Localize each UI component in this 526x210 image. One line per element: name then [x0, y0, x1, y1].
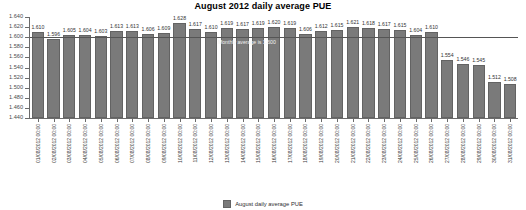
x-axis-label: 30/08/2012 00:00 — [489, 124, 499, 186]
x-axis-tick — [101, 118, 102, 122]
x-axis-tick — [38, 118, 39, 122]
bar-value-label: 1.603 — [90, 29, 112, 34]
bar-value-label: 1.609 — [153, 26, 175, 31]
chart-container: August 2012 daily average PUE 1.6401.620… — [0, 0, 526, 210]
x-axis-label: 21/08/2012 00:00 — [348, 124, 358, 186]
x-axis-label: 01/08/2012 00:00 — [33, 124, 43, 186]
x-axis-tick — [211, 118, 212, 122]
bar[interactable] — [63, 35, 75, 118]
bar[interactable] — [457, 64, 469, 118]
x-axis-tick — [510, 118, 511, 122]
bar[interactable] — [47, 39, 59, 118]
x-axis-label-text: 29/08/2012 00:00 — [476, 124, 481, 163]
x-axis-tick — [479, 118, 480, 122]
bar[interactable] — [315, 31, 327, 118]
x-axis-label-text: 09/08/2012 00:00 — [161, 124, 166, 163]
monthly-average-label: Monthly average is 1.600 — [218, 39, 276, 45]
x-axis-label: 22/08/2012 00:00 — [363, 124, 373, 186]
x-axis-tick — [305, 118, 306, 122]
x-axis-label-text: 21/08/2012 00:00 — [350, 124, 355, 163]
x-axis-label-text: 19/08/2012 00:00 — [319, 124, 324, 163]
bar[interactable] — [347, 27, 359, 118]
bar[interactable] — [299, 34, 311, 118]
x-axis-label-text: 06/08/2012 00:00 — [114, 124, 119, 163]
x-axis-label: 10/08/2012 00:00 — [175, 124, 185, 186]
bar[interactable] — [410, 35, 422, 118]
x-axis-tick — [117, 118, 118, 122]
bar[interactable] — [441, 60, 453, 118]
x-axis-label: 02/08/2012 00:00 — [49, 124, 59, 186]
x-axis-label: 14/08/2012 00:00 — [238, 124, 248, 186]
bar[interactable] — [331, 30, 343, 118]
x-axis-label-text: 03/08/2012 00:00 — [67, 124, 72, 163]
x-axis-label-text: 20/08/2012 00:00 — [334, 124, 339, 163]
bar[interactable] — [79, 35, 91, 118]
bar[interactable] — [189, 29, 201, 118]
x-axis-tick — [463, 118, 464, 122]
x-axis-label: 07/08/2012 00:00 — [127, 124, 137, 186]
bar[interactable] — [205, 32, 217, 118]
bar[interactable] — [488, 82, 500, 118]
bar[interactable] — [32, 32, 44, 118]
x-axis-label-text: 07/08/2012 00:00 — [130, 124, 135, 163]
bar-value-label: 1.628 — [169, 16, 191, 21]
x-axis-tick — [431, 118, 432, 122]
x-axis-label: 25/08/2012 00:00 — [411, 124, 421, 186]
y-axis-tick — [25, 118, 30, 119]
x-axis-label-text: 15/08/2012 00:00 — [256, 124, 261, 163]
x-axis-label-text: 26/08/2012 00:00 — [429, 124, 434, 163]
y-axis-tick-label: 1.480 — [0, 95, 23, 101]
x-axis-label-text: 18/08/2012 00:00 — [303, 124, 308, 163]
x-axis-tick — [447, 118, 448, 122]
bar[interactable] — [473, 65, 485, 118]
y-axis-tick-label: 1.540 — [0, 65, 23, 71]
x-axis-label-text: 05/08/2012 00:00 — [98, 124, 103, 163]
y-axis-tick-label: 1.640 — [0, 14, 23, 20]
bar[interactable] — [110, 31, 122, 118]
bar[interactable] — [126, 31, 138, 118]
bar-value-label: 1.610 — [27, 25, 49, 30]
x-axis-label-text: 10/08/2012 00:00 — [177, 124, 182, 163]
legend-swatch-icon — [223, 200, 231, 208]
chart-title: August 2012 daily average PUE — [0, 1, 526, 11]
bar[interactable] — [142, 34, 154, 118]
x-axis-label-text: 22/08/2012 00:00 — [366, 124, 371, 163]
x-axis-label: 13/08/2012 00:00 — [222, 124, 232, 186]
x-axis-label-text: 14/08/2012 00:00 — [240, 124, 245, 163]
x-axis-label: 23/08/2012 00:00 — [379, 124, 389, 186]
x-axis-label-text: 02/08/2012 00:00 — [51, 124, 56, 163]
chart-legend: August daily average PUE — [0, 200, 526, 208]
x-axis-label: 15/08/2012 00:00 — [253, 124, 263, 186]
bar[interactable] — [394, 30, 406, 118]
x-axis-label: 11/08/2012 00:00 — [190, 124, 200, 186]
x-axis-label: 31/08/2012 00:00 — [505, 124, 515, 186]
x-axis-tick — [132, 118, 133, 122]
y-axis-tick-label: 1.580 — [0, 44, 23, 50]
x-axis-label: 17/08/2012 00:00 — [285, 124, 295, 186]
bar-value-label: 1.610 — [421, 25, 443, 30]
bar[interactable] — [95, 36, 107, 118]
bar[interactable] — [158, 33, 170, 118]
bar[interactable] — [378, 29, 390, 118]
x-axis-tick — [243, 118, 244, 122]
bar[interactable] — [504, 84, 516, 118]
x-axis-tick — [368, 118, 369, 122]
bar[interactable] — [362, 28, 374, 118]
x-axis-label: 08/08/2012 00:00 — [143, 124, 153, 186]
x-axis-label: 29/08/2012 00:00 — [474, 124, 484, 186]
y-axis-tick-label: 1.620 — [0, 24, 23, 30]
x-axis-label-text: 08/08/2012 00:00 — [146, 124, 151, 163]
x-axis-label: 16/08/2012 00:00 — [269, 124, 279, 186]
bar[interactable] — [425, 32, 437, 118]
x-axis-tick — [180, 118, 181, 122]
x-axis-tick — [195, 118, 196, 122]
x-axis-tick — [416, 118, 417, 122]
x-axis-tick — [321, 118, 322, 122]
x-axis-tick — [258, 118, 259, 122]
x-axis-label-text: 24/08/2012 00:00 — [397, 124, 402, 163]
legend-label: August daily average PUE — [235, 201, 303, 207]
x-axis-tick — [227, 118, 228, 122]
x-axis-label: 05/08/2012 00:00 — [96, 124, 106, 186]
bar[interactable] — [284, 28, 296, 118]
x-axis-tick — [494, 118, 495, 122]
